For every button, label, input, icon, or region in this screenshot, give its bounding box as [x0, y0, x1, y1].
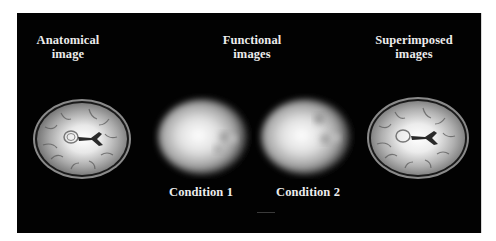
functional-images-title: Functional images — [206, 33, 298, 61]
superimposed-brain-image — [365, 96, 471, 181]
title-line: images — [368, 47, 460, 61]
functional-image-condition-1 — [152, 93, 252, 179]
superimposed-images-title: Superimposed images — [368, 33, 460, 61]
condition-2-label: Condition 2 — [272, 185, 344, 199]
figure-panel: Anatomical image Functional images Super… — [17, 13, 482, 233]
title-line: Superimposed — [368, 33, 460, 47]
title-line: images — [206, 47, 298, 61]
functional-image-condition-2 — [255, 93, 355, 179]
condition-1-label: Condition 1 — [165, 185, 237, 199]
title-line: Functional — [206, 33, 298, 47]
title-line: image — [22, 47, 114, 61]
anatomical-image-title: Anatomical image — [22, 33, 114, 61]
title-line: Anatomical — [22, 33, 114, 47]
anatomical-brain-image — [31, 97, 133, 181]
scan-artifact-line — [257, 212, 275, 213]
